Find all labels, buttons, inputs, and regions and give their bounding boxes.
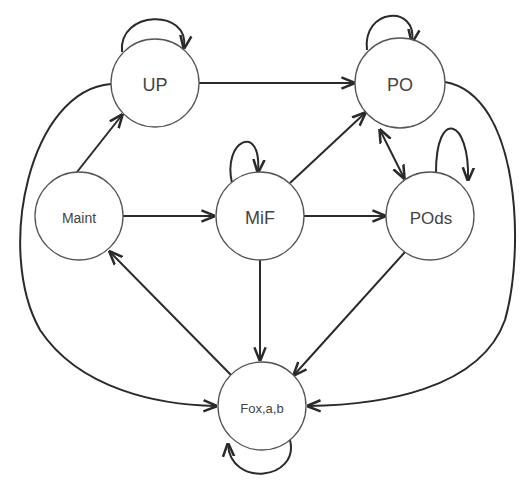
edge-maint-to-up bbox=[77, 115, 122, 172]
state-node-fox[interactable]: Fox,a,b bbox=[218, 362, 306, 450]
edge-mif-to-po bbox=[290, 113, 365, 183]
state-node-po[interactable]: PO bbox=[355, 38, 445, 128]
state-node-pods[interactable]: POds bbox=[386, 172, 474, 260]
state-label: Fox,a,b bbox=[240, 401, 283, 416]
nodes: UP PO Maint MiF POds Fox,a,b bbox=[35, 38, 474, 450]
edge-fox-to-maint bbox=[110, 252, 231, 375]
state-node-up[interactable]: UP bbox=[111, 39, 199, 127]
edge-pods-self-loop bbox=[436, 129, 468, 180]
state-node-mif[interactable]: MiF bbox=[216, 172, 304, 260]
state-label: POds bbox=[410, 209, 453, 228]
edge-pods-to-fox bbox=[294, 252, 405, 375]
state-diagram: UP PO Maint MiF POds Fox,a,b bbox=[0, 0, 521, 490]
edge-po-pods-bidirectional bbox=[380, 130, 404, 178]
state-label: Maint bbox=[62, 210, 96, 226]
state-label: UP bbox=[142, 75, 167, 95]
state-label: MiF bbox=[245, 208, 275, 228]
state-node-maint[interactable]: Maint bbox=[35, 172, 123, 260]
state-label: PO bbox=[387, 75, 413, 95]
